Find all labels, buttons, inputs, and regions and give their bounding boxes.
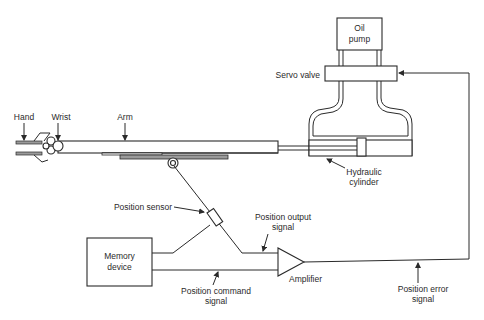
servo-valve: Servo valve — [276, 66, 397, 81]
hydraulic-cylinder-label-2: cylinder — [349, 177, 378, 187]
amplifier-label: Amplifier — [289, 274, 322, 284]
hydraulic-cylinder: Hydraulic cylinder — [278, 138, 412, 187]
position-output-signal: Position output signal — [255, 212, 312, 251]
position-sensor-label: Position sensor — [114, 202, 172, 212]
oil-pump-label-2: pump — [349, 34, 371, 44]
wrist-label: Wrist — [51, 112, 71, 122]
position-error-signal: Position error signal — [398, 263, 449, 304]
position-command-label-1: Position command — [181, 286, 251, 296]
memory-device-label-2: device — [107, 262, 132, 272]
feedback-loop — [304, 73, 469, 262]
position-command-label-2: signal — [205, 296, 227, 306]
hand-label: Hand — [14, 112, 35, 122]
hydraulic-cylinder-label-1: Hydraulic — [346, 167, 382, 177]
oil-pump: Oil pump — [337, 18, 382, 50]
arm-label: Arm — [117, 112, 133, 122]
signal-lines — [152, 225, 278, 270]
servo-valve-label: Servo valve — [276, 70, 321, 80]
position-error-label-1: Position error — [398, 284, 449, 294]
memory-device: Memory device — [87, 238, 152, 286]
position-output-label-2: signal — [272, 222, 294, 232]
diagram-canvas: Oil pump Servo valve Hydraulic cylinder — [0, 0, 484, 320]
amplifier: Amplifier — [278, 248, 322, 284]
wrist-hand: Hand Wrist — [14, 112, 71, 162]
position-error-label-2: signal — [412, 294, 434, 304]
position-command-signal: Position command signal — [181, 272, 251, 306]
pump-valve-pipes — [339, 50, 381, 66]
oil-pump-label-1: Oil — [354, 23, 365, 33]
position-output-label-1: Position output — [255, 212, 312, 222]
memory-device-label-1: Memory — [104, 251, 135, 261]
arm: Arm — [58, 112, 278, 159]
